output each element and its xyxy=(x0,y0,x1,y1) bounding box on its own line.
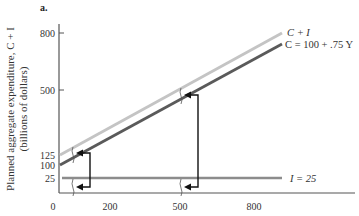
left-arrow-down-icon xyxy=(76,184,83,191)
consumption-label: C = 100 + .75 Y xyxy=(285,39,353,50)
y-ticks: 800 500 125 100 25 xyxy=(40,28,64,184)
c-plus-i-line xyxy=(60,33,282,155)
right-bracket-annotation xyxy=(180,88,198,196)
chart-canvas: 800 500 125 100 25 0 200 500 800 I = 25 … xyxy=(0,0,359,216)
y-tick-25: 25 xyxy=(45,173,55,184)
y-tick-100: 100 xyxy=(40,160,55,171)
investment-label: I = 25 xyxy=(289,173,316,184)
y-tick-500: 500 xyxy=(40,85,55,96)
x-tick-200: 200 xyxy=(103,201,118,212)
x-tick-500: 500 xyxy=(173,201,188,212)
right-arrow-down-icon xyxy=(184,184,191,191)
x-ticks: 0 200 500 800 xyxy=(51,201,262,212)
right-brace-upper xyxy=(180,88,182,104)
left-connector xyxy=(78,153,90,187)
left-bracket-annotation xyxy=(72,147,90,196)
y-tick-800: 800 xyxy=(40,28,55,39)
c-plus-i-label: C + I xyxy=(287,27,310,38)
right-connector xyxy=(186,95,198,187)
consumption-line xyxy=(60,44,282,165)
x-tick-0: 0 xyxy=(51,201,56,212)
x-tick-800: 800 xyxy=(247,201,262,212)
